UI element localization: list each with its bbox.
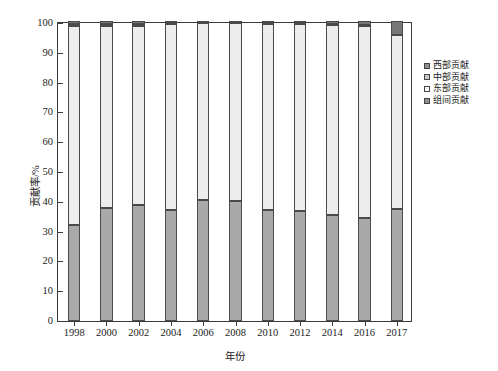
y-axis-tick-mark: [58, 142, 63, 143]
y-axis-tick-mark: [58, 321, 63, 322]
y-axis-tick-label: 40: [43, 197, 59, 208]
bar-segment[interactable]: [229, 23, 242, 201]
bar-segment[interactable]: [294, 24, 307, 211]
x-axis-tick-label: 2014: [322, 327, 343, 338]
bar-segment[interactable]: [132, 26, 145, 205]
x-axis-label: 年份: [57, 348, 412, 363]
y-axis-tick-label: 100: [37, 18, 58, 29]
x-axis-tick-mark: [300, 321, 301, 326]
bar-segment[interactable]: [165, 210, 178, 321]
x-axis-tick-mark: [268, 321, 269, 326]
x-axis-tick-label: 2000: [96, 327, 117, 338]
bar-segment[interactable]: [165, 21, 178, 23]
x-axis-tick-mark: [365, 321, 366, 326]
y-axis-tick-label: 0: [48, 316, 58, 327]
y-axis-tick-mark: [58, 172, 63, 173]
bar-segment[interactable]: [262, 210, 275, 321]
bar-segment[interactable]: [165, 24, 178, 210]
bar-segment[interactable]: [391, 21, 404, 35]
bar-stack[interactable]: [197, 23, 210, 321]
bar-segment[interactable]: [294, 21, 307, 23]
y-axis-tick-label: 80: [43, 77, 59, 88]
x-axis-tick-label: 2012: [290, 327, 311, 338]
bar-segment[interactable]: [100, 21, 113, 24]
y-axis-tick-mark: [58, 112, 63, 113]
y-axis-tick-mark: [58, 202, 63, 203]
bar-segment[interactable]: [197, 200, 210, 322]
bar-segment[interactable]: [132, 24, 145, 26]
legend-swatch-icon: [424, 63, 430, 69]
y-axis-tick-label: 90: [43, 48, 59, 59]
bar-stack[interactable]: [326, 23, 339, 321]
bar-segment[interactable]: [391, 35, 404, 208]
x-axis-tick-label: 2010: [257, 327, 278, 338]
x-axis-tick-mark: [332, 321, 333, 326]
legend-swatch-icon: [424, 74, 430, 80]
bar-segment[interactable]: [132, 205, 145, 321]
bar-segment[interactable]: [326, 215, 339, 321]
y-axis-tick-label: 60: [43, 137, 59, 148]
legend-item-label: 东部贡献: [433, 83, 469, 95]
bar-stack[interactable]: [294, 23, 307, 321]
bar-stack[interactable]: [165, 23, 178, 321]
y-axis-tick-label: 30: [43, 226, 59, 237]
bar-segment[interactable]: [391, 209, 404, 322]
bar-segment[interactable]: [358, 218, 371, 321]
x-axis-tick-mark: [106, 321, 107, 326]
x-axis-tick-mark: [74, 321, 75, 326]
legend-item-label: 西部贡献: [433, 60, 469, 72]
bar-stack[interactable]: [391, 23, 404, 321]
x-axis-tick-label: 2006: [193, 327, 214, 338]
y-axis-tick-mark: [58, 83, 63, 84]
bar-segment[interactable]: [100, 208, 113, 321]
y-axis-tick-label: 70: [43, 107, 59, 118]
x-axis-tick-mark: [203, 321, 204, 326]
bar-segment[interactable]: [68, 21, 81, 24]
bar-stack[interactable]: [229, 23, 242, 321]
bar-segment[interactable]: [262, 21, 275, 23]
bar-segment[interactable]: [229, 201, 242, 321]
bar-stack[interactable]: [132, 23, 145, 321]
legend-item-label: 组间贡献: [433, 95, 469, 107]
bar-segment[interactable]: [358, 21, 371, 25]
legend-item[interactable]: 中部贡献: [424, 72, 469, 84]
bar-stack[interactable]: [358, 23, 371, 321]
legend-swatch-icon: [424, 86, 430, 92]
plot-area: 0102030405060708090100199820002002200420…: [57, 22, 412, 322]
bar-stack[interactable]: [68, 23, 81, 321]
legend-item[interactable]: 组间贡献: [424, 95, 469, 107]
legend-item[interactable]: 西部贡献: [424, 60, 469, 72]
x-axis-tick-mark: [139, 321, 140, 326]
x-axis-tick-label: 2016: [354, 327, 375, 338]
bar-stack[interactable]: [262, 23, 275, 321]
x-axis-tick-label: 2008: [225, 327, 246, 338]
y-axis-tick-mark: [58, 261, 63, 262]
y-axis-tick-label: 10: [43, 286, 59, 297]
y-axis-tick-mark: [58, 291, 63, 292]
bar-stack[interactable]: [100, 23, 113, 321]
y-axis-tick-mark: [58, 232, 63, 233]
legend-swatch-icon: [424, 98, 430, 104]
legend-item[interactable]: 东部贡献: [424, 83, 469, 95]
bar-segment[interactable]: [132, 21, 145, 24]
x-axis-tick-mark: [171, 321, 172, 326]
bar-segment[interactable]: [229, 21, 242, 23]
bar-segment[interactable]: [68, 26, 81, 225]
bar-segment[interactable]: [262, 24, 275, 210]
bar-segment[interactable]: [197, 23, 210, 199]
bar-segment[interactable]: [294, 211, 307, 321]
bar-segment[interactable]: [197, 21, 210, 23]
bar-segment[interactable]: [100, 26, 113, 208]
bar-segment[interactable]: [358, 26, 371, 217]
bar-segment[interactable]: [358, 24, 371, 26]
bar-segment[interactable]: [326, 25, 339, 215]
y-axis-label: 贡献率/%: [27, 165, 42, 207]
bar-segment[interactable]: [326, 21, 339, 24]
bar-segment[interactable]: [68, 225, 81, 321]
x-axis-tick-label: 1998: [64, 327, 85, 338]
y-axis-tick-label: 50: [43, 167, 59, 178]
x-axis-tick-label: 2002: [128, 327, 149, 338]
y-axis-tick-label: 20: [43, 256, 59, 267]
x-axis-tick-label: 2017: [386, 327, 407, 338]
x-axis-tick-mark: [397, 321, 398, 326]
